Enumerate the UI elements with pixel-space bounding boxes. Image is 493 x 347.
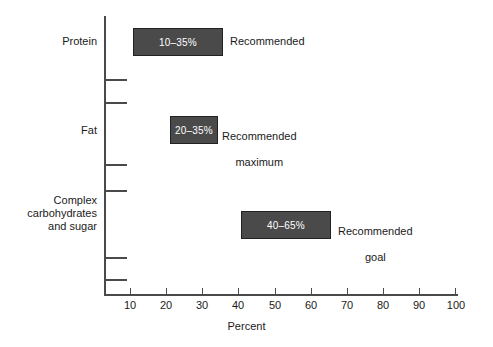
x-tick-label-50: 50 (260, 299, 290, 312)
category-label-line-3: and sugar (27, 220, 97, 233)
x-axis-tick (202, 288, 203, 295)
bar-fat: 20–35% (170, 116, 218, 144)
x-axis-tick (383, 288, 384, 295)
x-tick-label-60: 60 (296, 299, 326, 312)
x-axis-tick (311, 288, 312, 295)
x-tick-label-30: 30 (187, 299, 217, 312)
bar-annotation-fat-line-2: maximum (222, 156, 297, 169)
bar-annotation-carbs-line-1: Recommended (338, 225, 413, 238)
category-label-complex-carbohydrates: Complex carbohydrates and sugar (27, 194, 97, 233)
bar-value-complex-carbohydrates: 40–65% (267, 220, 305, 231)
x-axis-tick (347, 288, 348, 295)
bar-protein: 10–35% (133, 28, 223, 56)
bar-annotation-fat: Recommended maximum (222, 117, 297, 182)
y-axis-line (104, 16, 106, 296)
x-tick-label-70: 70 (332, 299, 362, 312)
y-axis-tick (105, 279, 127, 281)
y-axis-tick (105, 164, 127, 166)
bar-chart: 10 20 30 40 50 60 70 80 90 100 Percent P… (0, 0, 493, 347)
x-axis-tick (455, 288, 456, 295)
category-label-protein: Protein (62, 35, 97, 48)
category-label-line-1: Complex (27, 194, 97, 207)
y-axis-tick (105, 257, 127, 259)
x-axis-tick (275, 288, 276, 295)
bar-annotation-complex-carbohydrates: Recommended goal (338, 212, 413, 277)
x-tick-label-80: 80 (368, 299, 398, 312)
bar-complex-carbohydrates: 40–65% (241, 211, 331, 239)
x-axis-tick (166, 288, 167, 295)
x-axis-tick (130, 288, 131, 295)
x-tick-label-40: 40 (223, 299, 253, 312)
bar-annotation-protein: Recommended (230, 35, 305, 48)
x-tick-label-20: 20 (151, 299, 181, 312)
x-tick-label-10: 10 (115, 299, 145, 312)
category-label-fat: Fat (81, 124, 97, 137)
x-axis-title: Percent (0, 320, 493, 332)
y-axis-tick (105, 79, 127, 81)
bar-annotation-carbs-line-2: goal (338, 251, 413, 264)
category-label-line-2: carbohydrates (27, 207, 97, 220)
bar-value-protein: 10–35% (159, 37, 197, 48)
y-axis-tick (105, 190, 127, 192)
bar-annotation-fat-line-1: Recommended (222, 130, 297, 143)
x-tick-label-90: 90 (404, 299, 434, 312)
x-tick-label-100: 100 (441, 299, 471, 312)
bar-value-fat: 20–35% (175, 125, 213, 136)
x-axis-line (104, 294, 458, 296)
x-axis-tick (419, 288, 420, 295)
x-axis-tick (238, 288, 239, 295)
y-axis-tick (105, 102, 127, 104)
